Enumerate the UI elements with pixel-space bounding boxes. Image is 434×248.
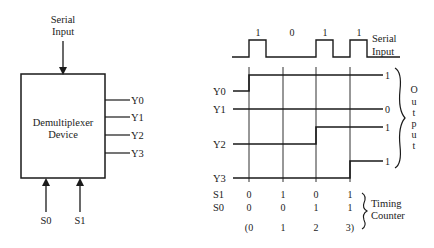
- svg-text:t: t: [413, 140, 416, 151]
- serial-bit-3: 1: [357, 27, 362, 38]
- s1-value-2: 0: [314, 189, 319, 200]
- s1-row-label: S1: [213, 189, 224, 200]
- timing-counter-label-2: Counter: [371, 210, 405, 221]
- serial-bit-0: 1: [256, 27, 261, 38]
- serial-input-wave-label-2: Input: [372, 46, 394, 57]
- output-label-y0: Y0: [131, 95, 144, 106]
- svg-text:p: p: [412, 118, 417, 129]
- s0-value-1: 0: [281, 202, 286, 213]
- y2-row-label: Y2: [213, 139, 226, 150]
- y2-waveform: [233, 127, 383, 144]
- timing-counter-brace: [362, 193, 367, 229]
- y3-row-label: Y3: [213, 173, 226, 184]
- select-label-s1: S1: [74, 215, 85, 226]
- y0-waveform: [233, 75, 383, 91]
- s0-value-3: 1: [348, 202, 353, 213]
- y3-waveform: [233, 161, 383, 178]
- output-brace-label: O u t p u t: [410, 84, 417, 151]
- serial-bit-2: 1: [323, 27, 328, 38]
- serial-input-label: Serial: [51, 14, 76, 25]
- s0-value-2: 1: [314, 202, 319, 213]
- serial-input-wave-label: Serial: [372, 33, 397, 44]
- svg-text:O: O: [410, 84, 417, 95]
- timing-counter-label: Timing: [371, 198, 402, 209]
- output-label-y2: Y2: [131, 130, 144, 141]
- s0-value-0: 0: [247, 202, 252, 213]
- counter-value-0: (0: [245, 222, 253, 234]
- serial-bit-1: 0: [290, 27, 295, 38]
- s1-value-0: 0: [247, 189, 252, 200]
- y1-row-label: Y1: [213, 104, 226, 115]
- counter-value-1: 1: [281, 222, 286, 233]
- output-label-y3: Y3: [131, 148, 144, 159]
- y0-row-label: Y0: [213, 86, 226, 97]
- block-diagram: Serial Input Demultiplexer Device Y0 Y1 …: [21, 14, 144, 226]
- svg-text:u: u: [412, 96, 417, 107]
- serial-input-label-2: Input: [52, 26, 74, 37]
- y0-value: 1: [385, 70, 390, 81]
- output-label-y1: Y1: [131, 112, 144, 123]
- device-label: Demultiplexer: [33, 117, 94, 128]
- counter-value-2: 2: [314, 222, 319, 233]
- s1-value-1: 1: [281, 189, 286, 200]
- svg-text:u: u: [412, 129, 417, 140]
- diagram-canvas: Serial Input Demultiplexer Device Y0 Y1 …: [0, 0, 434, 248]
- s0-row-label: S0: [213, 202, 224, 213]
- timing-diagram: 1 0 1 1 Serial Input Y0 1 Y1 0 Y2 1 Y3 1…: [213, 27, 418, 234]
- s1-value-3: 1: [348, 189, 353, 200]
- counter-value-3: 3): [346, 222, 354, 234]
- y3-value: 1: [385, 156, 390, 167]
- svg-text:t: t: [413, 107, 416, 118]
- device-label-2: Device: [48, 129, 78, 140]
- y2-value: 1: [385, 122, 390, 133]
- select-label-s0: S0: [40, 215, 51, 226]
- output-brace: [395, 68, 405, 168]
- y1-value: 0: [385, 104, 390, 115]
